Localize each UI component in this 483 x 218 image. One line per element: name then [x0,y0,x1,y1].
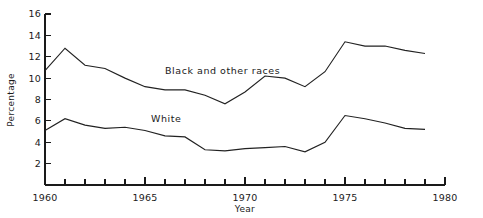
x-axis-title: Year [234,204,255,214]
x-tick-label-1980: 1980 [433,192,458,203]
y-tick-label-2: 2 [35,158,41,169]
x-tick-label-1970: 1970 [233,192,258,203]
chart-figure: 246810121416 19601965197019751980 Black … [0,0,483,218]
y-tick-label-6: 6 [35,115,41,126]
y-tick-label-12: 12 [29,51,42,62]
y-tick-label-8: 8 [35,94,41,105]
x-tick-label-1965: 1965 [133,192,158,203]
y-axis-tick-group [45,14,51,185]
x-tick-label-1960: 1960 [33,192,58,203]
y-tick-label-4: 4 [35,137,41,148]
x-tick-label-1975: 1975 [333,192,358,203]
y-tick-label-16: 16 [29,8,42,19]
x-axis-tick-labels: 19601965197019751980 [33,192,458,203]
series-group [45,42,425,152]
x-axis-tick-group [45,177,445,185]
series-line-white [45,116,425,152]
y-tick-label-10: 10 [29,73,42,84]
y-tick-label-14: 14 [29,30,42,41]
series-label-white: White [151,113,181,124]
y-axis-tick-labels: 246810121416 [29,8,42,169]
y-axis-title: Percentage [6,73,16,127]
line-chart-canvas: 246810121416 19601965197019751980 Black … [0,0,483,218]
series-label-black-and-other-races: Black and other races [165,65,280,76]
